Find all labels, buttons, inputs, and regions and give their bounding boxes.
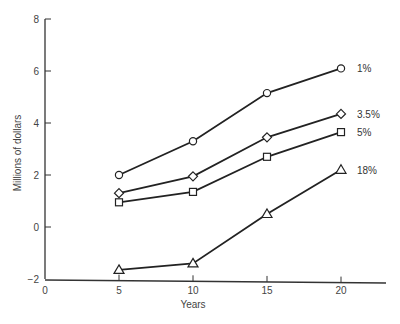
series-3-5pct — [115, 109, 346, 197]
circle-marker-icon — [115, 171, 122, 178]
x-tick-label: 10 — [187, 285, 199, 296]
x-axis-title: Years — [180, 299, 205, 310]
series-label: 5% — [357, 127, 372, 138]
square-marker-icon — [338, 129, 345, 136]
y-tick-label: 8 — [33, 14, 39, 25]
y-tick-label: 0 — [33, 222, 39, 233]
triangle-marker-icon — [262, 209, 272, 218]
series-line — [119, 132, 341, 202]
x-tick-label: 0 — [42, 285, 48, 296]
y-tick-label: 4 — [33, 118, 39, 129]
y-tick-label: −2 — [28, 274, 40, 285]
y-tick-label: 6 — [33, 66, 39, 77]
square-marker-icon — [190, 188, 197, 195]
triangle-marker-icon — [336, 165, 346, 174]
series-label: 18% — [357, 165, 377, 176]
series-line — [119, 114, 341, 193]
circle-marker-icon — [337, 65, 344, 72]
series-line — [119, 68, 341, 175]
triangle-marker-icon — [188, 258, 198, 267]
diamond-marker-icon — [263, 133, 272, 142]
line-chart: −20246805101520YearsMillions of dollars1… — [0, 0, 400, 324]
x-tick-label: 20 — [335, 285, 347, 296]
y-tick-label: 2 — [33, 170, 39, 181]
axes — [45, 19, 386, 283]
series-label: 1% — [357, 63, 372, 74]
series-group — [114, 65, 346, 274]
series-1pct — [115, 65, 344, 179]
series-18pct — [114, 165, 346, 274]
square-marker-icon — [264, 153, 271, 160]
circle-marker-icon — [189, 138, 196, 145]
x-axis-line — [45, 280, 386, 283]
square-marker-icon — [116, 199, 123, 206]
series-5pct — [116, 129, 345, 206]
x-tick-label: 5 — [116, 285, 122, 296]
circle-marker-icon — [263, 90, 270, 97]
diamond-marker-icon — [337, 109, 346, 118]
diamond-marker-icon — [115, 189, 124, 198]
series-label: 3.5% — [357, 109, 380, 120]
diamond-marker-icon — [189, 172, 198, 181]
x-tick-label: 15 — [261, 285, 273, 296]
figure-caption-cutoff — [10, 318, 110, 324]
y-axis-title: Millions of dollars — [12, 115, 23, 192]
